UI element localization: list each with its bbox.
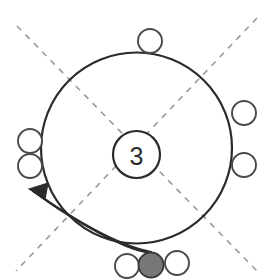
diagram-canvas: 3 [0, 0, 270, 279]
player-marker-top [138, 29, 162, 53]
player-marker-bottom-right [165, 251, 189, 275]
play-diagram: 3 [0, 0, 270, 279]
center-circle-label: 3 [130, 142, 144, 170]
player-marker-left-upper [18, 129, 42, 153]
player-marker-bottom-left [115, 254, 139, 278]
player-marker-left-lower [18, 154, 42, 178]
motion-arrowhead [29, 183, 48, 199]
player-marker-ball-carrier [139, 253, 164, 278]
player-marker-right-lower [232, 153, 256, 177]
player-marker-right-upper [232, 101, 256, 125]
